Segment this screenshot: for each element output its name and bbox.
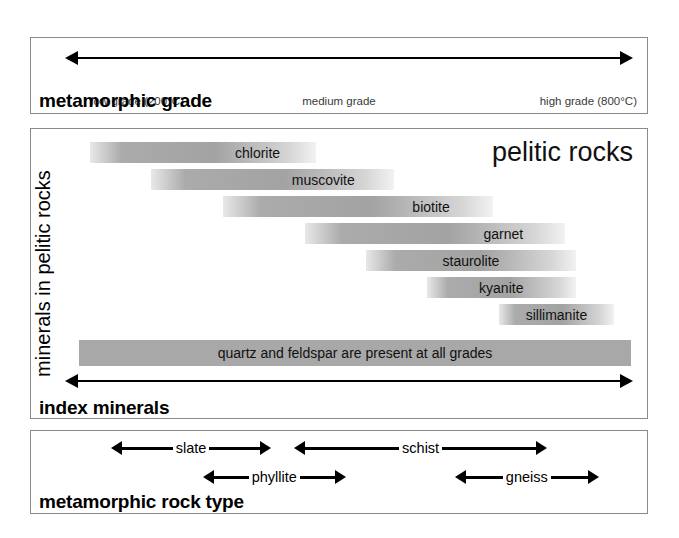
- arrow-head-right-icon: [260, 441, 271, 455]
- arrow-head-right-icon: [588, 470, 599, 484]
- range-gneiss: gneiss: [455, 468, 599, 486]
- bar-garnet-fill: [305, 223, 564, 244]
- bar-biotite-label: biotite: [412, 199, 449, 215]
- pelitic-rocks-title: pelitic rocks: [492, 137, 633, 168]
- metamorphic-grade-panel: low grade (200°C) medium grade high grad…: [30, 37, 648, 114]
- bar-garnet-label: garnet: [484, 226, 524, 242]
- bar-quartz-feldspar: quartz and feldspar are present at all g…: [79, 340, 631, 366]
- index-minerals-heading: index minerals: [39, 397, 169, 419]
- arrow-head-left-icon: [455, 470, 466, 484]
- metamorphic-rock-type-panel: slateschistphyllitegneiss metamorphic ro…: [30, 430, 648, 514]
- bar-muscovite-label: muscovite: [292, 172, 355, 188]
- arrow-head-left-icon: [203, 470, 214, 484]
- bar-chlorite-label: chlorite: [235, 145, 280, 161]
- range-slate-label: slate: [173, 441, 210, 455]
- arrow-shaft: [70, 57, 628, 59]
- arrow-head-left-icon: [111, 441, 122, 455]
- arrow-head-right-icon: [335, 470, 346, 484]
- bar-biotite-fill: [223, 196, 493, 217]
- arrow-head-right-icon: [620, 374, 633, 388]
- bar-sillimanite-label: sillimanite: [526, 307, 587, 323]
- bar-sillimanite: sillimanite: [499, 304, 615, 325]
- range-phyllite-label: phyllite: [249, 470, 300, 484]
- bar-muscovite: muscovite: [151, 169, 394, 190]
- arrow-shaft: [70, 380, 628, 382]
- bar-quartz-feldspar-label: quartz and feldspar are present at all g…: [218, 345, 493, 361]
- index-minerals-panel: pelitic rocks chloritemuscovitebiotitega…: [30, 128, 648, 419]
- range-slate: slate: [111, 439, 272, 457]
- index-minerals-axis-arrow: [65, 374, 633, 388]
- arrow-head-right-icon: [536, 441, 547, 455]
- metamorphic-grade-heading: metamorphic grade: [39, 90, 212, 112]
- bar-chlorite-fill: [90, 142, 316, 163]
- bar-muscovite-fill: [151, 169, 394, 190]
- arrow-head-left-icon: [294, 441, 305, 455]
- grade-axis-arrow: [65, 51, 633, 65]
- range-schist-label: schist: [399, 441, 442, 455]
- bar-biotite: biotite: [223, 196, 493, 217]
- bar-kyanite: kyanite: [427, 277, 576, 298]
- arrow-head-right-icon: [620, 51, 633, 65]
- bar-garnet: garnet: [305, 223, 564, 244]
- grade-label-high: high grade (800°C): [540, 95, 637, 107]
- bar-chlorite: chlorite: [90, 142, 316, 163]
- range-schist: schist: [294, 439, 547, 457]
- bar-staurolite-label: staurolite: [443, 253, 500, 269]
- bar-kyanite-label: kyanite: [479, 280, 523, 296]
- metamorphic-rock-type-heading: metamorphic rock type: [39, 491, 244, 513]
- grade-label-medium: medium grade: [302, 95, 376, 107]
- bar-staurolite: staurolite: [366, 250, 576, 271]
- range-phyllite: phyllite: [203, 468, 347, 486]
- range-gneiss-label: gneiss: [503, 470, 551, 484]
